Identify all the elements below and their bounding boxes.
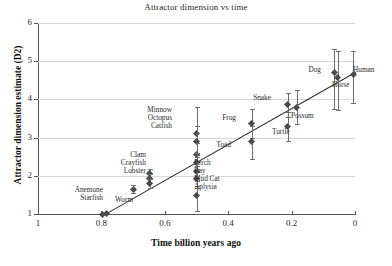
- x-tick-label: 0.8: [89, 218, 113, 228]
- x-tick-mark: [228, 211, 229, 215]
- gridline: [38, 61, 355, 62]
- point-label-possum: Possum: [291, 112, 323, 120]
- error-bar-cap: [195, 153, 200, 154]
- x-tick-mark: [165, 211, 166, 215]
- point-label-catfish: Catfish: [128, 122, 172, 130]
- error-bar-cap: [295, 90, 300, 91]
- point-label-lobster: Lobster: [106, 167, 146, 175]
- y-tick-mark: [34, 176, 38, 177]
- error-bar-cap: [336, 110, 341, 111]
- gridline: [38, 23, 355, 24]
- point-label-turtle: Turtle: [272, 128, 300, 136]
- y-axis-title: Attractor dimension estimate (D2): [13, 15, 23, 215]
- error-bar-cap: [195, 143, 200, 144]
- x-tick-mark: [38, 211, 39, 215]
- point-label-aplysia: Aplysia: [194, 183, 234, 191]
- x-tick-label: 1: [26, 218, 50, 228]
- error-bar-cap: [286, 93, 291, 94]
- error-bar-cap: [131, 193, 136, 194]
- point-label-human: Human: [353, 66, 385, 74]
- y-tick-mark: [34, 138, 38, 139]
- chart-title: Attractor dimension vs time: [0, 2, 392, 12]
- y-tick-mark: [34, 23, 38, 24]
- error-bar-cap: [351, 51, 356, 52]
- error-bar-cap: [148, 188, 153, 189]
- point-label-worm: Worm: [115, 196, 155, 204]
- error-bar-cap: [195, 211, 200, 212]
- point-label-snake: Snake: [243, 94, 271, 102]
- x-tick-mark: [292, 211, 293, 215]
- x-axis-title: Time billion years ago: [0, 238, 392, 248]
- error-bar-cap: [250, 159, 255, 160]
- chart-root: Attractor dimension vs time 123456 10.80…: [0, 0, 392, 266]
- x-tick-label: 0: [343, 218, 367, 228]
- x-tick-label: 0.6: [153, 218, 177, 228]
- point-label-toad: Toad: [207, 141, 231, 149]
- x-tick-label: 0.4: [216, 218, 240, 228]
- error-bar-cap: [295, 124, 300, 125]
- point-label-starfish: Starfish: [55, 194, 103, 202]
- error-bar-cap: [286, 141, 291, 142]
- error-bar-cap: [336, 51, 341, 52]
- error-bar-cap: [351, 103, 356, 104]
- error-bar-cap: [250, 109, 255, 110]
- point-label-frog: Frog: [212, 114, 236, 122]
- error-bar-cap: [195, 107, 200, 108]
- y-tick-mark: [34, 99, 38, 100]
- point-label-horse: Horse: [332, 81, 360, 89]
- x-tick-mark: [355, 211, 356, 215]
- x-tick-label: 0.2: [280, 218, 304, 228]
- error-bar-cap: [195, 126, 200, 127]
- x-axis-line: [38, 214, 356, 215]
- error-bar-cap: [250, 126, 255, 127]
- y-tick-mark: [34, 61, 38, 62]
- point-label-dog: Dog: [301, 66, 321, 74]
